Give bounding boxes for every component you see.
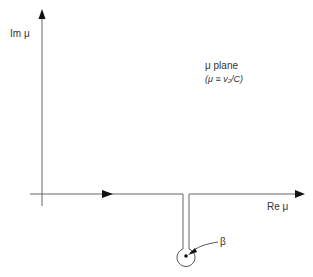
real-axis-label: Re μ xyxy=(267,201,288,212)
contour-drawing xyxy=(0,0,313,277)
imag-axis-arrowhead-icon xyxy=(39,9,46,19)
imag-axis-label: Im μ xyxy=(10,28,30,39)
real-axis-arrowhead-icon xyxy=(295,190,305,198)
branch-point-dot xyxy=(184,254,188,258)
contour-direction-arrow-icon xyxy=(102,190,113,198)
plane-definition: (μ ≡ v₂/C) xyxy=(205,74,243,84)
branch-point-label: β xyxy=(220,236,226,247)
plane-title: μ plane xyxy=(205,60,238,71)
mu-plane-diagram: Im μ μ plane (μ ≡ v₂/C) Re μ β xyxy=(0,0,313,277)
